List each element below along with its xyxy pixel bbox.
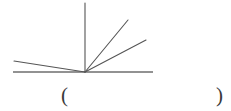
open-paren: ( [61,81,68,109]
close-paren: ) [216,81,223,109]
ray-upper-right-steep [85,20,128,72]
ray-upper-right-shallow [85,40,146,72]
answer-blank: ( ) [0,81,231,111]
ray-upper-left [14,61,85,72]
figure-page: ( ) [0,0,231,111]
